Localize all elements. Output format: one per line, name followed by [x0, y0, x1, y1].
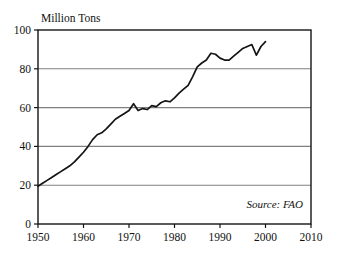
- x-tick-label: 1960: [72, 231, 95, 243]
- x-tick-label: 2010: [300, 231, 323, 243]
- y-tick-label: 100: [14, 24, 32, 36]
- x-tick-label: 1950: [27, 231, 50, 243]
- x-tick-label: 2000: [254, 231, 277, 243]
- y-tick-label: 80: [20, 63, 32, 75]
- chart-background: [0, 0, 341, 258]
- source-note: Source: FAO: [246, 198, 303, 210]
- y-tick-label: 20: [20, 179, 32, 191]
- x-tick-label: 1970: [118, 231, 141, 243]
- y-tick-label: 0: [25, 218, 31, 230]
- chart-figure: 020406080100 195019601970198019902000201…: [0, 0, 341, 258]
- y-tick-label: 60: [20, 102, 32, 114]
- y-axis-title: Million Tons: [41, 12, 101, 24]
- y-tick-label: 40: [20, 140, 32, 152]
- x-tick-label: 1990: [209, 231, 232, 243]
- chart-canvas: 020406080100 195019601970198019902000201…: [0, 0, 341, 258]
- x-tick-label: 1980: [163, 231, 186, 243]
